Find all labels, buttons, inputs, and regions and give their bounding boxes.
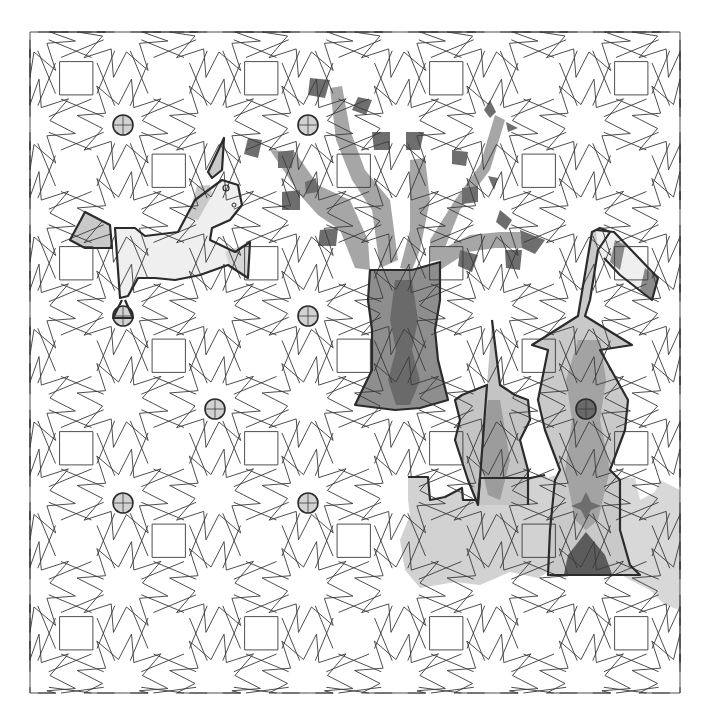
rosette-edge <box>111 419 113 447</box>
rosette-edge <box>77 206 105 208</box>
strand-line <box>49 317 92 335</box>
strand-line <box>49 192 92 210</box>
rosette-edge <box>540 113 568 115</box>
strand-line <box>234 410 277 428</box>
strand-line <box>282 606 300 649</box>
rosette-edge <box>512 32 537 41</box>
strand-line <box>511 317 554 335</box>
strand-line <box>190 525 208 568</box>
strand-line <box>282 248 300 291</box>
strand-line <box>408 51 426 94</box>
rosette-edge <box>540 668 568 670</box>
rosette-edge <box>296 326 298 354</box>
rosette-edge <box>576 607 589 632</box>
rosette-edge <box>666 234 668 262</box>
rosette-edge <box>262 298 290 300</box>
strand-line <box>153 469 196 487</box>
rosette-edge <box>540 298 568 300</box>
rosette-edge <box>235 398 260 411</box>
rosette-edge <box>298 607 311 632</box>
strand-line <box>523 654 566 672</box>
strand-line <box>560 155 578 198</box>
strand-line <box>38 513 56 556</box>
strand-line <box>431 654 474 672</box>
rosette-edge <box>391 607 404 632</box>
rosette-edge <box>204 141 206 169</box>
strand-line <box>130 433 148 476</box>
rosette-edge <box>324 596 352 598</box>
strand-line <box>419 99 462 117</box>
strand-line <box>326 410 369 428</box>
rosette-edge <box>262 668 290 670</box>
rosette-edge <box>77 578 102 591</box>
rosette-edge <box>211 542 224 567</box>
strand-line <box>49 410 92 428</box>
strand-line <box>141 502 184 520</box>
strand-line <box>130 513 148 556</box>
rosette-edge <box>420 32 445 41</box>
strand-line <box>246 284 289 302</box>
strand-line <box>223 328 241 371</box>
rosette-edge <box>355 115 380 128</box>
strand-line <box>604 99 647 117</box>
strand-line <box>246 562 289 580</box>
strand-line <box>593 63 611 106</box>
rosette-edge <box>224 357 226 385</box>
strand-line <box>190 606 208 649</box>
rosette-edge <box>119 634 132 659</box>
strand-line <box>560 248 578 291</box>
rosette-edge <box>119 79 132 104</box>
rosette-edge <box>262 485 287 498</box>
strand-line <box>61 132 104 150</box>
rosette-edge <box>632 115 657 128</box>
rosette-edge <box>298 52 311 77</box>
strand-line <box>130 606 148 649</box>
rosette-edge <box>30 449 39 474</box>
rosette-edge <box>235 213 260 226</box>
strand-line <box>338 502 381 520</box>
rosette-edge <box>142 32 167 41</box>
strand-line <box>500 51 518 94</box>
rosette-edge <box>602 226 630 228</box>
strand-line <box>38 433 56 476</box>
rosette-edge <box>540 206 568 208</box>
rosette-edge <box>327 32 352 41</box>
strand-line <box>652 421 670 464</box>
rosette-edge <box>396 79 409 104</box>
rosette-edge <box>632 393 657 406</box>
rosette-edge <box>594 634 596 662</box>
strand-line <box>153 377 196 395</box>
tiling-svg <box>0 0 711 717</box>
strand-line <box>246 469 289 487</box>
rosette-edge <box>139 134 167 136</box>
rosette-edge <box>355 578 380 591</box>
rosette-edge <box>632 206 660 208</box>
rosette-edge <box>170 115 195 128</box>
strand-line <box>61 40 104 58</box>
strand-line <box>153 192 196 210</box>
rosette-edge <box>602 596 630 598</box>
rosette-edge <box>355 483 383 485</box>
strand-line <box>616 317 659 335</box>
strand-line <box>593 143 611 186</box>
rosette-edge <box>296 511 298 539</box>
strand-line <box>61 377 104 395</box>
strand-line <box>616 132 659 150</box>
rosette-edge <box>232 319 260 321</box>
strand-line <box>467 63 485 106</box>
strand-line <box>223 525 241 568</box>
strand-line <box>38 155 56 198</box>
rosette-edge <box>447 300 472 313</box>
strand-line <box>315 143 333 186</box>
rosette-edge <box>512 213 537 226</box>
rosette-edge <box>674 79 680 104</box>
rosette-edge <box>417 411 445 413</box>
strand-line <box>604 192 647 210</box>
rosette-edge <box>142 491 167 504</box>
rosette-edge <box>206 514 219 539</box>
strand-line <box>375 63 393 106</box>
strand-line <box>49 132 92 150</box>
rosette-edge <box>119 172 132 197</box>
strand-line <box>523 284 566 302</box>
rosette-edge <box>232 134 260 136</box>
